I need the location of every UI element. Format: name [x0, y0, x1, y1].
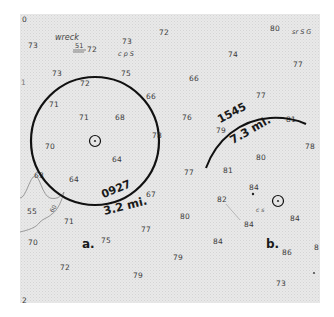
depth-sounding: 67 [146, 191, 156, 199]
depth-sounding: 84 [249, 184, 259, 192]
depth-sounding: 80 [180, 213, 190, 221]
depth-sounding: 66 [189, 75, 199, 83]
nautical-chart [20, 14, 320, 303]
depth-sounding: 84 [213, 238, 223, 246]
depth-sounding: 78 [152, 132, 162, 140]
depth-sounding: 79 [216, 127, 226, 135]
bottom-note-cps: c p S [118, 51, 134, 58]
edge-sounding: 1 [21, 79, 26, 87]
depth-sounding: 80 [256, 154, 266, 162]
wreck-label: wreck [55, 34, 79, 42]
depth-sounding: 77 [184, 169, 194, 177]
depth-sounding: 76 [182, 114, 192, 122]
panel-label-a: a. [82, 238, 95, 250]
depth-sounding: 73 [122, 38, 132, 46]
depth-sounding: 64 [69, 176, 79, 184]
depth-sounding: 78 [305, 143, 315, 151]
depth-sounding: 72 [60, 264, 70, 272]
depth-sounding: 79 [173, 254, 183, 262]
depth-sounding: 71 [79, 114, 89, 122]
depth-sounding: 74 [228, 51, 238, 59]
depth-sounding: 73 [28, 42, 38, 50]
depth-sounding: 68 [115, 114, 125, 122]
depth-sounding: 77 [256, 92, 266, 100]
depth-sounding: 86 [282, 249, 292, 257]
depth-sounding: 84 [244, 221, 254, 229]
depth-sounding: 72 [80, 80, 90, 88]
depth-sounding: 81 [286, 116, 296, 124]
depth-sounding: 81 [223, 167, 233, 175]
edge-sounding: 8 [314, 244, 319, 252]
depth-sounding: 64 [112, 156, 122, 164]
depth-sounding: 84 [290, 215, 300, 223]
depth-sounding: 75 [121, 70, 131, 78]
depth-sounding: 77 [141, 226, 151, 234]
depth-sounding: 66 [146, 93, 156, 101]
wreck-depth: 51 [75, 43, 84, 50]
depth-sounding: 79 [133, 272, 143, 280]
depth-sounding: 70 [28, 239, 38, 247]
depth-sounding: 63 [34, 172, 44, 180]
depth-sounding: 71 [64, 218, 74, 226]
edge-sounding: 0 [22, 16, 27, 24]
bottom-note-cs: c s [256, 207, 264, 213]
depth-sounding: 72 [159, 29, 169, 37]
panel-label-b: b. [266, 238, 279, 250]
depth-sounding: 82 [217, 196, 227, 204]
depth-sounding: 70 [45, 143, 55, 151]
depth-sounding: 75 [101, 237, 111, 245]
depth-sounding: 55 [27, 208, 37, 216]
depth-sounding: 77 [293, 61, 303, 69]
bottom-note-srsg: sr S G [292, 29, 311, 36]
wreck-sounding: 72 [87, 46, 97, 54]
depth-sounding: 71 [49, 101, 59, 109]
edge-sounding: 2 [22, 297, 27, 305]
depth-sounding: 73 [52, 70, 62, 78]
depth-sounding: 80 [270, 25, 280, 33]
depth-sounding: 73 [276, 280, 286, 288]
